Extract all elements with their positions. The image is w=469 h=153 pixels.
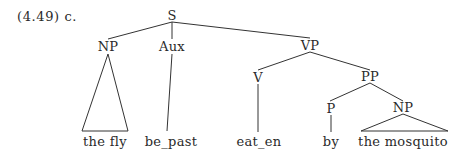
- node-s: S: [167, 9, 176, 22]
- leaf-eat-en: eat_en: [236, 135, 281, 148]
- leaf-the-fly: the fly: [83, 135, 127, 148]
- leaf-by: by: [323, 135, 339, 148]
- node-pp: PP: [361, 70, 379, 83]
- leaf-the-mosquito: the mosquito: [358, 135, 448, 148]
- node-p: P: [326, 102, 335, 115]
- node-aux: Aux: [159, 40, 185, 53]
- node-np-subject: NP: [98, 40, 119, 53]
- node-vp: VP: [301, 39, 320, 52]
- example-number: (4.49) c.: [17, 9, 77, 24]
- leaf-be-past: be_past: [145, 135, 198, 148]
- node-v: V: [253, 71, 263, 84]
- node-np-object: NP: [393, 101, 414, 114]
